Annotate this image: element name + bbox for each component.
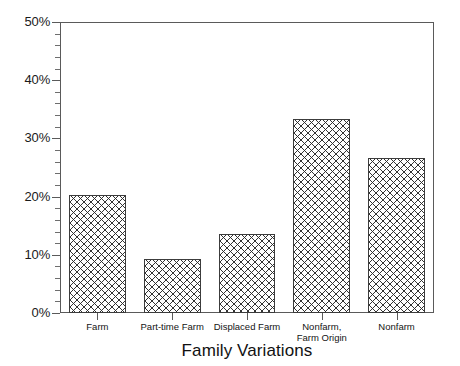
bar	[69, 195, 126, 313]
bars-group	[60, 22, 434, 313]
bar	[368, 158, 425, 313]
x-axis-category-label: Displaced Farm	[210, 321, 285, 332]
x-axis-tick	[97, 313, 98, 320]
x-axis-category-label: Part-time Farm	[135, 321, 210, 332]
y-axis-tick	[52, 197, 60, 198]
x-axis-tick	[322, 313, 323, 320]
y-axis-tick-label: 30%	[2, 131, 50, 144]
y-axis-tick-label: 20%	[2, 190, 50, 203]
y-axis-tick-label: 10%	[2, 248, 50, 261]
x-axis-category-label: Nonfarm	[359, 321, 434, 332]
y-axis-tick-label: 40%	[2, 73, 50, 86]
x-axis-title: Family Variations	[60, 341, 434, 361]
y-axis-tick-label: 0%	[2, 306, 50, 319]
x-axis-tick	[247, 313, 248, 320]
x-axis-category-label: Farm	[60, 321, 135, 332]
bar	[219, 234, 276, 313]
bar-chart: 50%40%30%20%10%0% FarmPart-time FarmDisp…	[0, 0, 460, 366]
x-axis-tick	[172, 313, 173, 320]
x-axis-tick	[397, 313, 398, 320]
y-axis-labels: 50%40%30%20%10%0%	[0, 0, 50, 366]
y-axis-tick	[52, 22, 60, 23]
bar	[144, 259, 201, 313]
y-axis-tick	[52, 255, 60, 256]
y-axis-tick	[52, 138, 60, 139]
bar	[293, 119, 350, 313]
x-axis-category-label: Nonfarm, Farm Origin	[284, 321, 359, 343]
y-axis-tick	[52, 313, 60, 314]
y-axis-tick	[52, 80, 60, 81]
y-axis-tick-label: 50%	[2, 15, 50, 28]
